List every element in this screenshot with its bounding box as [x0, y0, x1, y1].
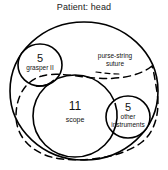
set-grasper-ii-name: grasper II	[12, 64, 68, 72]
purse-string-suture-label-line2: suture	[84, 60, 146, 68]
set-other-instruments-name-line2: instruments	[102, 121, 154, 129]
purse-string-suture-label-group: purse-string suture	[84, 52, 146, 68]
set-scope-name: scope	[45, 116, 105, 124]
venn-diagram-root: Patient: head 5 grasper II 11 scope 5 ot…	[0, 0, 168, 170]
set-scope-count: 11	[45, 100, 105, 113]
set-other-instruments-count: 5	[102, 101, 154, 113]
venn-diagram-svg	[0, 0, 168, 170]
set-other-instruments-label-group: 5 other instruments	[102, 101, 154, 128]
set-grasper-ii-count: 5	[12, 52, 68, 64]
set-scope-label-group: 11 scope	[45, 100, 105, 124]
purse-string-suture-leader	[96, 72, 120, 74]
purse-string-suture-label-line1: purse-string	[84, 52, 146, 60]
set-grasper-ii-label-group: 5 grasper II	[12, 52, 68, 72]
set-other-instruments-name-line1: other	[102, 113, 154, 121]
